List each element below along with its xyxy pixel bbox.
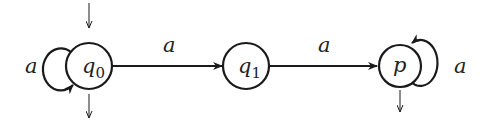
state-p-label: p	[393, 53, 406, 77]
q1-p-label: a	[318, 33, 331, 57]
q0-loop-label: a	[25, 54, 38, 78]
automaton-diagram: q0 q1 p a a a a	[0, 0, 486, 121]
p-loop-label: a	[454, 54, 467, 78]
q0-q1-label: a	[163, 33, 176, 57]
